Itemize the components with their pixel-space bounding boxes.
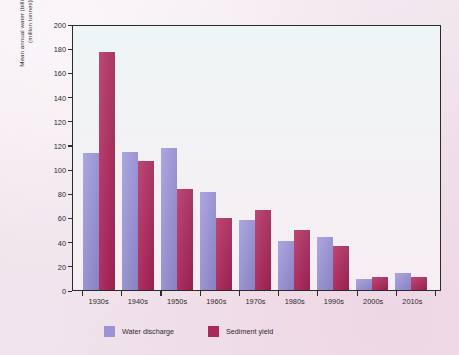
bar-sediment-yield — [255, 210, 271, 290]
legend-swatch-sediment-yield — [208, 326, 219, 337]
x-axis-tick-mark — [435, 291, 436, 296]
x-axis-tick-mark — [160, 291, 161, 296]
x-axis-tick-mark — [239, 291, 240, 296]
bar-water-discharge — [317, 237, 333, 290]
x-axis-tick-mark — [317, 291, 318, 296]
legend-label: Sediment yield — [226, 327, 273, 336]
bar-sediment-yield — [411, 277, 427, 290]
x-axis-tick-mark — [121, 291, 122, 296]
y-axis-tick-label: 120 — [40, 117, 66, 126]
x-axis-tick-label: 1940s — [121, 297, 160, 311]
bar-group — [278, 26, 317, 290]
plot-area — [72, 25, 441, 291]
y-axis-tick-label: 60 — [40, 214, 66, 223]
bar-sediment-yield — [372, 277, 388, 290]
bar-group — [122, 26, 161, 290]
bar-sediment-yield — [99, 52, 115, 290]
bar-group — [239, 26, 278, 290]
y-axis-tick-label: 80 — [40, 190, 66, 199]
bar-sediment-yield — [216, 218, 232, 290]
x-axis-tick-mark — [82, 291, 83, 296]
bar-sediment-yield — [294, 230, 310, 290]
x-axis-tick-label: 2010s — [396, 297, 435, 311]
bar-water-discharge — [395, 273, 411, 290]
y-axis-tick-label: 180 — [40, 45, 66, 54]
y-axis-tick-label: 20 — [40, 262, 66, 271]
y-axis-tick-label: 140 — [40, 93, 66, 102]
bar-water-discharge — [356, 279, 372, 290]
bar-group — [395, 26, 434, 290]
bar-sediment-yield — [333, 246, 349, 290]
bar-water-discharge — [239, 220, 255, 290]
bar-group — [200, 26, 239, 290]
y-axis-tick-label: 40 — [40, 238, 66, 247]
legend-item: Water discharge — [104, 326, 174, 337]
y-axis-title: Mean annual water (billion m³) or sedime… — [18, 0, 42, 92]
legend-item: Sediment yield — [208, 326, 273, 337]
bar-sediment-yield — [177, 189, 193, 290]
x-axis-tick-label: 1970s — [239, 297, 278, 311]
chart-legend: Water dischargeSediment yield — [104, 326, 273, 337]
x-axis-tick-mark — [278, 291, 279, 296]
legend-label: Water discharge — [122, 327, 174, 336]
bar-chart-figure: Mean annual water (billion m³) or sedime… — [0, 0, 459, 355]
y-axis-tick-label: 200 — [40, 21, 66, 30]
x-axis-tick-mark — [396, 291, 397, 296]
bar-group — [83, 26, 122, 290]
bar-water-discharge — [122, 152, 138, 290]
y-axis-tick-label: 160 — [40, 69, 66, 78]
bar-water-discharge — [83, 153, 99, 290]
x-axis-tick-mark — [357, 291, 358, 296]
x-axis-tick-label: 2000s — [357, 297, 396, 311]
y-axis-tick-label: 100 — [40, 166, 66, 175]
x-axis-tick-label: 1950s — [160, 297, 199, 311]
bar-water-discharge — [200, 192, 216, 290]
bar-group — [356, 26, 395, 290]
y-axis-title-line-2: (million tonnes) discharge — [26, 0, 34, 92]
x-axis-tick-label: 1980s — [278, 297, 317, 311]
bar-group — [161, 26, 200, 290]
y-axis-title-line-1: Mean annual water (billion m³) or sedime… — [18, 0, 26, 92]
x-axis-labels: 1930s1940s1950s1960s1970s1980s1990s2000s… — [72, 297, 441, 311]
bar-sediment-yield — [138, 161, 154, 290]
bar-water-discharge — [161, 148, 177, 290]
x-axis-tick-label: 1930s — [82, 297, 121, 311]
bar-groups — [73, 26, 440, 290]
bar-water-discharge — [278, 241, 294, 290]
x-axis-tick-mark — [200, 291, 201, 296]
bar-group — [317, 26, 356, 290]
y-axis-tick-label: 120 — [40, 141, 66, 150]
x-axis-tick-label: 1990s — [317, 297, 356, 311]
y-axis-tick-label: 0 — [40, 287, 66, 296]
x-axis-tick-label: 1960s — [200, 297, 239, 311]
legend-swatch-water-discharge — [104, 326, 115, 337]
